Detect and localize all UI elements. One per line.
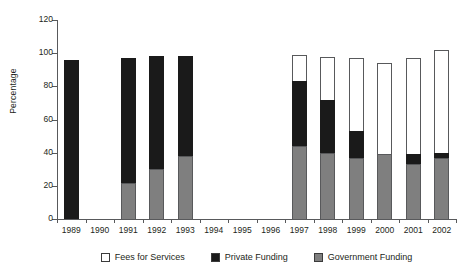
legend-item-fees-for-services: Fees for Services bbox=[101, 252, 185, 262]
x-tick-mark bbox=[57, 219, 58, 223]
y-tick-label: 80 bbox=[44, 80, 53, 90]
bar-segment-government-funding bbox=[406, 164, 421, 219]
x-tick-mark bbox=[456, 219, 457, 223]
x-tick-mark bbox=[399, 219, 400, 223]
bar-1991 bbox=[121, 58, 136, 219]
bar-segment-government-funding bbox=[377, 154, 392, 219]
y-tick-label: 20 bbox=[44, 180, 53, 190]
x-tick-mark bbox=[371, 219, 372, 223]
bar-segment-fees-for-services bbox=[377, 63, 392, 154]
bar-segment-fees-for-services bbox=[292, 55, 307, 82]
y-axis-title: Percentage bbox=[8, 46, 18, 136]
bar-segment-private-funding bbox=[320, 100, 335, 153]
bar-1999 bbox=[349, 58, 364, 219]
plot-area: 020406080100120 198919901991199219931994… bbox=[57, 20, 456, 219]
bar-segment-fees-for-services bbox=[320, 57, 335, 100]
y-tick-label: 120 bbox=[39, 14, 53, 24]
bar-segment-private-funding bbox=[149, 56, 164, 169]
y-tick-label: 60 bbox=[44, 114, 53, 124]
x-tick-mark bbox=[314, 219, 315, 223]
y-tick-label: 40 bbox=[44, 147, 53, 157]
stacked-bar-chart: Percentage 020406080100120 1989199019911… bbox=[0, 0, 463, 278]
x-tick-mark bbox=[143, 219, 144, 223]
x-tick-mark bbox=[285, 219, 286, 223]
chart-legend: Fees for Services Private Funding Govern… bbox=[57, 252, 456, 262]
legend-swatch-fees-for-services bbox=[101, 253, 110, 262]
bar-1997 bbox=[292, 55, 307, 219]
bar-segment-government-funding bbox=[178, 156, 193, 219]
y-tick-label: 100 bbox=[39, 47, 53, 57]
bar-segment-government-funding bbox=[149, 169, 164, 219]
bar-1989 bbox=[64, 60, 79, 219]
legend-swatch-private-funding bbox=[211, 253, 220, 262]
bar-segment-private-funding bbox=[178, 56, 193, 156]
y-tick-label: 0 bbox=[48, 213, 53, 223]
x-tick-mark bbox=[171, 219, 172, 223]
x-tick-mark bbox=[342, 219, 343, 223]
legend-item-government-funding: Government Funding bbox=[314, 252, 413, 262]
legend-label-fees-for-services: Fees for Services bbox=[115, 252, 185, 262]
bar-2000 bbox=[377, 63, 392, 219]
bar-segment-government-funding bbox=[434, 158, 449, 219]
x-tick-mark bbox=[257, 219, 258, 223]
y-axis-line bbox=[57, 20, 58, 219]
bar-segment-private-funding bbox=[64, 60, 79, 219]
bar-segment-fees-for-services bbox=[406, 58, 421, 154]
bar-segment-government-funding bbox=[292, 146, 307, 219]
x-tick-mark bbox=[200, 219, 201, 223]
bar-1998 bbox=[320, 57, 335, 220]
legend-item-private-funding: Private Funding bbox=[211, 252, 288, 262]
bar-segment-government-funding bbox=[320, 153, 335, 219]
bar-2001 bbox=[406, 58, 421, 219]
bar-segment-fees-for-services bbox=[434, 50, 449, 153]
bar-1993 bbox=[178, 56, 193, 219]
x-tick-mark bbox=[228, 219, 229, 223]
bar-1992 bbox=[149, 56, 164, 219]
bar-segment-government-funding bbox=[121, 183, 136, 219]
legend-swatch-government-funding bbox=[314, 253, 323, 262]
bar-segment-government-funding bbox=[349, 158, 364, 219]
bar-2002 bbox=[434, 50, 449, 219]
bar-segment-private-funding bbox=[121, 58, 136, 182]
bar-segment-private-funding bbox=[292, 81, 307, 146]
x-tick-mark bbox=[114, 219, 115, 223]
bar-segment-private-funding bbox=[349, 131, 364, 158]
x-tick-label: 2002 bbox=[422, 225, 462, 235]
legend-label-government-funding: Government Funding bbox=[328, 252, 413, 262]
x-tick-mark bbox=[86, 219, 87, 223]
bar-segment-fees-for-services bbox=[349, 58, 364, 131]
legend-label-private-funding: Private Funding bbox=[225, 252, 288, 262]
bar-segment-private-funding bbox=[406, 154, 421, 164]
x-tick-mark bbox=[428, 219, 429, 223]
